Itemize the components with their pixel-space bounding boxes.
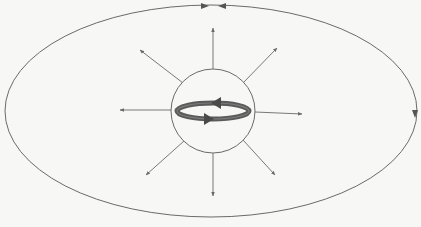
- field-diagram: [0, 0, 421, 227]
- radial-arrow-up-left: [140, 50, 183, 83]
- arrowhead-icon: [201, 3, 209, 9]
- arrowhead-icon: [218, 3, 226, 9]
- radial-arrow-up-right: [243, 48, 277, 83]
- central-sphere: [171, 69, 255, 153]
- diagram-canvas: [0, 0, 421, 227]
- radial-arrow-down-right: [243, 140, 275, 175]
- radial-arrow-right: [255, 112, 302, 114]
- radial-arrow-down-left: [146, 141, 184, 175]
